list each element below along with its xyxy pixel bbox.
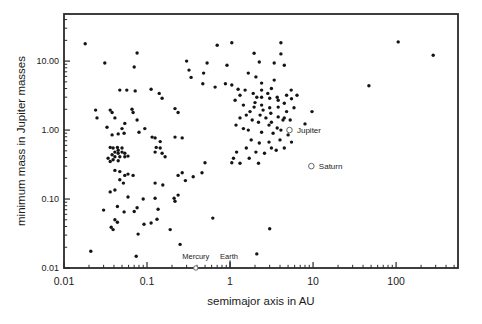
data-point — [269, 112, 272, 115]
data-point — [270, 87, 273, 90]
data-point — [283, 102, 286, 105]
data-point — [260, 131, 263, 134]
plot-border — [64, 14, 458, 268]
data-point — [126, 154, 129, 157]
data-point — [290, 97, 293, 100]
data-point — [181, 136, 184, 139]
data-point — [260, 103, 263, 106]
data-point — [187, 68, 190, 71]
x-tick-label: 0.1 — [140, 275, 155, 287]
data-point — [123, 155, 126, 158]
data-point — [242, 127, 245, 130]
data-point — [176, 111, 179, 114]
data-point — [260, 96, 263, 99]
data-point — [142, 223, 145, 226]
data-point — [252, 92, 255, 95]
y-tick-label: 0.10 — [41, 194, 59, 204]
data-point — [267, 123, 270, 126]
data-point — [150, 135, 153, 138]
data-point — [254, 150, 257, 153]
data-point — [224, 82, 227, 85]
data-point — [255, 252, 258, 255]
data-point — [153, 197, 156, 200]
data-point — [135, 206, 138, 209]
data-point — [118, 170, 121, 173]
data-point — [178, 243, 181, 246]
data-point — [213, 85, 216, 88]
data-point — [109, 146, 112, 149]
jupiter-marker — [287, 127, 293, 133]
data-point — [113, 116, 116, 119]
data-point — [123, 174, 126, 177]
data-point — [230, 83, 233, 86]
data-point — [245, 113, 248, 116]
data-point — [130, 108, 133, 111]
data-point — [257, 121, 260, 124]
data-point — [185, 59, 188, 62]
data-point — [122, 181, 125, 184]
data-point — [120, 146, 123, 149]
data-point — [109, 190, 112, 193]
data-point — [260, 81, 263, 84]
data-point — [250, 138, 253, 141]
data-point — [247, 71, 250, 74]
data-point — [277, 115, 280, 118]
data-point — [251, 118, 254, 121]
data-point — [254, 75, 257, 78]
data-point — [230, 41, 233, 44]
data-point — [159, 146, 162, 149]
x-axis-title: semimajor axis in AU — [207, 295, 314, 307]
data-point — [143, 127, 146, 130]
x-tick-label: 0.01 — [54, 275, 75, 287]
data-point — [117, 159, 120, 162]
y-tick-label: 10.00 — [36, 56, 59, 66]
data-point — [205, 61, 208, 64]
data-point — [123, 122, 126, 125]
data-point — [172, 197, 175, 200]
data-point — [242, 103, 245, 106]
data-point — [432, 54, 435, 57]
data-point — [158, 92, 161, 95]
x-axis-ticks: 0.010.1110100 — [54, 262, 454, 287]
data-point — [268, 227, 271, 230]
data-point — [234, 123, 237, 126]
data-point — [113, 155, 116, 158]
solar-system-markers: JupiterSaturnMercuryEarth — [182, 126, 342, 270]
data-point — [103, 61, 106, 64]
data-point — [277, 105, 280, 108]
data-point — [117, 132, 120, 135]
y-axis-ticks: 10.001.000.100.01 — [36, 20, 70, 273]
x-tick-label: 1 — [227, 275, 233, 287]
data-point — [125, 88, 128, 91]
data-point — [245, 146, 248, 149]
data-point — [95, 116, 98, 119]
data-point — [169, 228, 172, 231]
data-point — [110, 153, 113, 156]
data-point — [176, 174, 179, 177]
scatter-plot-svg: 0.010.1110100 10.001.000.100.01 JupiterS… — [0, 0, 482, 324]
data-point — [277, 99, 280, 102]
data-point — [273, 61, 276, 64]
data-point — [290, 140, 293, 143]
data-point — [153, 181, 156, 184]
data-point — [268, 97, 271, 100]
data-point — [133, 65, 136, 68]
mercury-marker — [194, 266, 198, 270]
data-point — [248, 110, 251, 113]
data-point — [266, 92, 269, 95]
data-point — [286, 133, 289, 136]
data-point — [243, 88, 246, 91]
data-point — [275, 149, 278, 152]
data-point — [117, 152, 120, 155]
data-point — [184, 179, 187, 182]
scatter-figure: 0.010.1110100 10.001.000.100.01 JupiterS… — [0, 0, 482, 324]
data-point — [135, 118, 138, 121]
data-point — [276, 96, 279, 99]
data-point — [94, 108, 97, 111]
data-point — [264, 116, 267, 119]
data-point — [111, 146, 114, 149]
data-point — [113, 150, 116, 153]
data-point — [285, 110, 288, 113]
data-point — [279, 52, 282, 55]
data-point — [106, 157, 109, 160]
